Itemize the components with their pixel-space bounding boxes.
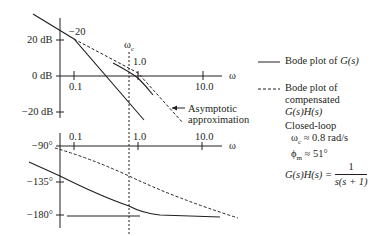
crossover-frequency: ωc ≈ 0.8 rad/s xyxy=(285,132,348,148)
crossover-label: ωc xyxy=(124,40,134,53)
legend-dashed-label: Bode plot of compensated G(s)H(s) xyxy=(285,82,340,118)
closed-loop-title: Closed-loop xyxy=(285,120,348,132)
mag-x-tick-10.0: 10.0 xyxy=(195,82,213,93)
mag-tick-0db: 0 dB xyxy=(32,71,52,82)
mag-x-tick-0.1: 0.1 xyxy=(69,82,82,93)
transfer-fraction: 1 s(s + 1) xyxy=(335,161,368,188)
phase-x-tick-10.0: 10.0 xyxy=(195,132,213,143)
transfer-function: G(s)H(s) = 1 s(s + 1) xyxy=(285,161,367,188)
closed-loop-block: Closed-loop ωc ≈ 0.8 rad/s ϕm ≈ 51° xyxy=(285,120,348,164)
phase-tick-180: −180° xyxy=(27,210,53,221)
phase-x-axis-label: ω xyxy=(229,141,236,152)
mag-tick-minus20db: −20 dB xyxy=(22,107,53,118)
legend-dashed-line-icon xyxy=(258,87,280,91)
phase-x-tick-0.1: 0.1 xyxy=(69,132,82,143)
phase-tick-135: −135° xyxy=(27,177,53,188)
mag-x-axis-label: ω xyxy=(229,71,236,82)
phase-tick-90: −90° xyxy=(32,141,53,152)
mag-tick-20db: 20 dB xyxy=(27,35,52,46)
magnitude-curve-G-actual xyxy=(113,63,153,95)
phase-curve-G xyxy=(29,162,220,217)
mag-x-tick-1.0: 1.0 xyxy=(133,57,146,68)
legend-solid-label: Bode plot of G(s) xyxy=(285,55,359,67)
phase-x-tick-1.0: 1.0 xyxy=(133,132,146,143)
slope-label: −20 xyxy=(69,27,85,38)
legend-solid-line-icon xyxy=(258,60,280,64)
phase-curve-GH xyxy=(55,148,238,218)
asymptote-note: Asymptotic approximation xyxy=(188,103,249,125)
